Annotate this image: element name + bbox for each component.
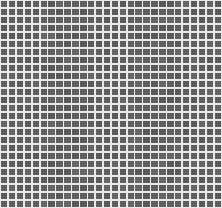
tile: [9, 153, 15, 159]
tile: [64, 161, 70, 167]
tile: [80, 113, 86, 119]
tile: [215, 193, 221, 199]
tile: [135, 81, 141, 87]
tile: [104, 105, 110, 111]
tile: [33, 177, 39, 183]
tile: [104, 145, 110, 151]
tile: [80, 129, 86, 135]
tile: [9, 193, 15, 199]
tile: [159, 161, 165, 167]
tile: [72, 169, 78, 175]
tile: [207, 129, 213, 135]
tile: [41, 57, 47, 63]
tile: [183, 41, 189, 47]
tile: [33, 41, 39, 47]
tile: [88, 41, 94, 47]
tile: [48, 1, 54, 7]
tile: [72, 153, 78, 159]
tile: [104, 193, 110, 199]
tile: [199, 137, 205, 143]
tile: [120, 153, 126, 159]
tile: [175, 65, 181, 71]
tile: [25, 65, 31, 71]
tile: [112, 177, 118, 183]
tile: [64, 105, 70, 111]
tile: [48, 113, 54, 119]
tile: [215, 1, 221, 7]
tile: [151, 161, 157, 167]
tile: [199, 17, 205, 23]
tile: [128, 201, 134, 207]
tile: [199, 161, 205, 167]
tile: [112, 57, 118, 63]
tile: [88, 57, 94, 63]
tile: [1, 33, 7, 39]
tile: [143, 145, 149, 151]
tile: [104, 25, 110, 31]
tile: [207, 169, 213, 175]
tile: [33, 129, 39, 135]
tile: [175, 153, 181, 159]
tile: [167, 129, 173, 135]
tile: [135, 105, 141, 111]
tile: [33, 17, 39, 23]
tile: [88, 177, 94, 183]
tile: [143, 89, 149, 95]
tile: [64, 169, 70, 175]
tile: [64, 137, 70, 143]
tile: [143, 9, 149, 15]
tile: [199, 57, 205, 63]
tile: [191, 1, 197, 7]
tile: [128, 89, 134, 95]
tile: [17, 89, 23, 95]
tile: [72, 97, 78, 103]
tile: [143, 121, 149, 127]
tile: [112, 137, 118, 143]
tile: [183, 201, 189, 207]
tile: [183, 145, 189, 151]
tile: [17, 153, 23, 159]
tile: [135, 193, 141, 199]
tile: [191, 33, 197, 39]
tile: [64, 121, 70, 127]
tile: [33, 65, 39, 71]
tile: [207, 105, 213, 111]
tile: [112, 33, 118, 39]
tile: [17, 145, 23, 151]
tile: [64, 113, 70, 119]
tile: [191, 41, 197, 47]
tile: [41, 201, 47, 207]
tile: [104, 9, 110, 15]
tile: [33, 161, 39, 167]
tile: [215, 17, 221, 23]
tile: [48, 49, 54, 55]
tile: [215, 81, 221, 87]
tile: [183, 137, 189, 143]
tile: [72, 121, 78, 127]
tile: [175, 73, 181, 79]
tile: [17, 113, 23, 119]
tile: [17, 9, 23, 15]
tile: [167, 105, 173, 111]
tile: [207, 153, 213, 159]
tile: [104, 161, 110, 167]
tile: [41, 129, 47, 135]
tile: [72, 33, 78, 39]
tile: [215, 57, 221, 63]
tile: [48, 97, 54, 103]
tile: [88, 153, 94, 159]
tile: [9, 177, 15, 183]
tile: [151, 33, 157, 39]
tile: [120, 73, 126, 79]
tile: [151, 17, 157, 23]
tile: [64, 41, 70, 47]
tile: [120, 57, 126, 63]
tile: [143, 137, 149, 143]
tile: [112, 25, 118, 31]
tile: [96, 17, 102, 23]
tile: [199, 105, 205, 111]
tile: [199, 169, 205, 175]
tile: [159, 17, 165, 23]
tile: [72, 17, 78, 23]
tile: [88, 201, 94, 207]
